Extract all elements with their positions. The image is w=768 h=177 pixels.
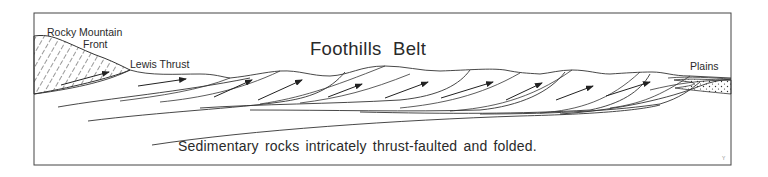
diagram-title: Foothills Belt (310, 40, 426, 59)
rocky-mountain-front-block (34, 35, 130, 94)
splay-fault (540, 72, 640, 113)
corner-mark: Y (722, 156, 725, 161)
label-rocky-mountain: Rocky Mountain (47, 27, 122, 38)
thrust-arrow (138, 79, 186, 86)
geologic-cross-section: Rocky Mountain Front Lewis Thrust Foothi… (0, 0, 768, 177)
thrust-fault (250, 72, 565, 111)
thrust-arrow (506, 83, 542, 100)
thrust-arrow (214, 80, 252, 97)
label-front: Front (83, 39, 108, 50)
splay-fault (120, 78, 230, 101)
splay-fault (300, 74, 410, 103)
splay-fault (160, 71, 280, 102)
ground-surface (130, 66, 731, 78)
thrust-arrow (606, 82, 650, 96)
label-plains: Plains (690, 61, 719, 72)
thrust-arrow (385, 82, 428, 98)
thrust-arrow (556, 86, 593, 100)
diagram-caption: Sedimentary rocks intricately thrust-fau… (178, 139, 537, 153)
thrust-fault (88, 72, 345, 121)
label-lewis-thrust: Lewis Thrust (130, 59, 189, 70)
